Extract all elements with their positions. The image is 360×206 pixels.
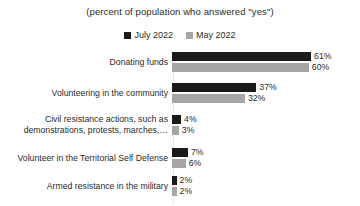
bar-group-item: 3% <box>172 126 360 135</box>
category-bars: 61%60% <box>172 52 360 72</box>
bar-value-label: 60% <box>312 63 329 72</box>
chart-category-row: Volunteer in the Territorial Self Defens… <box>0 148 360 168</box>
bar-may-2022 <box>172 159 186 168</box>
legend-item-july-2022: July 2022 <box>124 30 173 40</box>
bar-group-item: 6% <box>172 159 360 168</box>
category-label: Volunteer in the Territorial Self Defens… <box>0 153 172 164</box>
bar-value-label: 3% <box>182 126 195 135</box>
bar-group-item: 2% <box>172 176 360 185</box>
bar-group-item: 2% <box>172 187 360 196</box>
bar-may-2022 <box>172 126 179 135</box>
bar-may-2022 <box>172 94 245 103</box>
bar-group-item: 32% <box>172 94 360 103</box>
bar-group-item: 7% <box>172 148 360 157</box>
legend-label: July 2022 <box>134 30 173 40</box>
category-bars: 4%3% <box>172 115 360 135</box>
legend-label: May 2022 <box>196 30 236 40</box>
chart-category-row: Volunteering in the community37%32% <box>0 83 360 103</box>
bar-july-2022 <box>172 176 177 185</box>
bar-group-item: 61% <box>172 52 360 61</box>
bar-july-2022 <box>172 52 311 61</box>
category-bars: 37%32% <box>172 83 360 103</box>
chart-category-row: Armed resistance in the military2%2% <box>0 176 360 196</box>
bar-july-2022 <box>172 115 181 124</box>
category-label: Armed resistance in the military <box>0 181 172 192</box>
chart-category-row: Donating funds61%60% <box>0 52 360 72</box>
legend-item-may-2022: May 2022 <box>186 30 236 40</box>
bar-july-2022 <box>172 148 188 157</box>
bar-value-label: 2% <box>180 176 193 185</box>
bar-value-label: 7% <box>191 148 204 157</box>
plot-area: Donating funds61%60%Volunteering in the … <box>0 52 360 204</box>
bar-group-item: 60% <box>172 63 360 72</box>
bar-chart: (percent of population who answered "yes… <box>0 0 360 206</box>
bar-value-label: 32% <box>248 94 265 103</box>
category-label: Donating funds <box>0 57 172 68</box>
bar-value-label: 2% <box>180 187 193 196</box>
category-label: Volunteering in the community <box>0 88 172 99</box>
category-bars: 7%6% <box>172 148 360 168</box>
chart-title: (percent of population who answered "yes… <box>0 6 360 18</box>
category-label: Civil resistance actions, such as demons… <box>0 114 172 136</box>
legend-swatch-icon <box>124 32 131 39</box>
bar-may-2022 <box>172 187 177 196</box>
bar-may-2022 <box>172 63 309 72</box>
bar-value-label: 6% <box>189 159 202 168</box>
bar-july-2022 <box>172 83 256 92</box>
legend-swatch-icon <box>186 32 193 39</box>
bar-value-label: 61% <box>314 52 331 61</box>
bar-group-item: 37% <box>172 83 360 92</box>
chart-legend: July 2022 May 2022 <box>0 30 360 40</box>
bar-value-label: 4% <box>184 115 197 124</box>
bar-group-item: 4% <box>172 115 360 124</box>
chart-category-row: Civil resistance actions, such as demons… <box>0 114 360 136</box>
category-bars: 2%2% <box>172 176 360 196</box>
bar-value-label: 37% <box>259 83 276 92</box>
